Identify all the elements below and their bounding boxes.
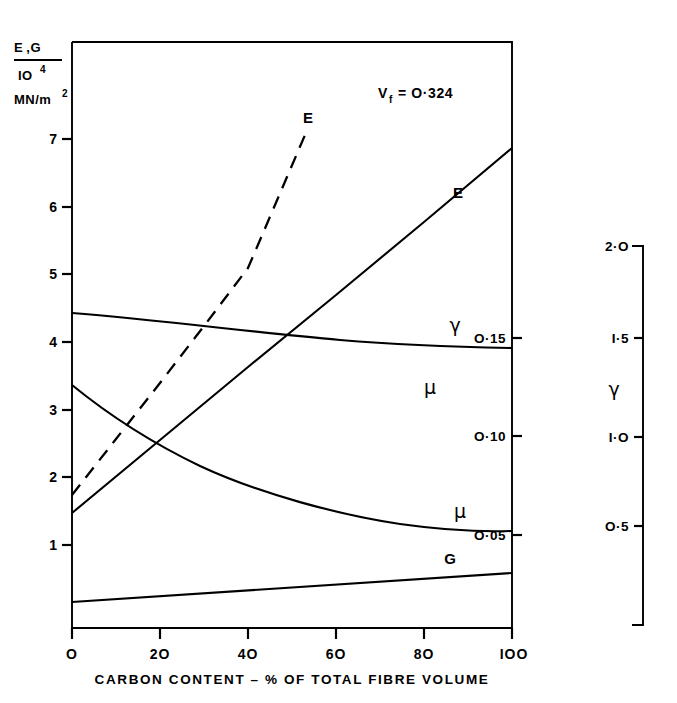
curve-label-E-solid: E [453,184,463,201]
y-axis-title-line3: MN/m [14,92,51,107]
curve-label-mu-lower: μ [454,500,466,522]
y-axis-title-line1: E ,G [14,40,41,55]
vf-value: = O·324 [398,85,453,101]
y-tick-2: 2 [49,469,57,485]
mu-axis-ticks [512,338,522,535]
gamma-axis-spine [632,246,643,625]
curve-E-solid [72,148,512,513]
vf-symbol: V [378,85,388,101]
figure-root: 7 6 5 4 3 2 1 E ,G IO 4 MN/m 2 O [0,0,677,703]
mu-tick-015: O·15 [474,331,506,346]
x-axis-ticks [72,628,512,639]
gamma-tick-10: I·O [609,430,629,445]
y-axis-title-line2: IO [18,68,33,83]
y-tick-5: 5 [49,266,57,282]
curve-label-gamma: γ [449,314,460,336]
x-tick-60: 6O [326,646,347,662]
gamma-tick-05: O·5 [605,519,629,534]
x-tick-20: 2O [150,646,171,662]
x-tick-0: O [66,646,78,662]
curve-label-E-dashed: E [303,109,313,126]
curve-E-dashed [72,135,305,495]
gamma-axis-name: γ [608,378,619,400]
x-axis-title: CARBON CONTENT – % OF TOTAL FIBRE VOLUME [95,672,490,687]
vf-annotation: V f = O·324 [378,85,453,105]
chart-svg: 7 6 5 4 3 2 1 E ,G IO 4 MN/m 2 O [0,0,677,703]
gamma-tick-15: I·5 [612,331,629,346]
mu-axis-tick-labels: O·15 O·10 O·05 [474,331,506,543]
curve-label-G: G [444,550,456,567]
y-tick-3: 3 [49,402,57,418]
x-tick-40: 4O [238,646,259,662]
y-axis-ticks [62,139,72,545]
gamma-tick-20: 2·O [605,239,629,254]
curve-label-mu-upper: μ [424,376,436,398]
vf-subscript: f [389,94,393,105]
y-tick-4: 4 [49,334,57,350]
y-axis-tick-labels: 7 6 5 4 3 2 1 [49,131,57,553]
x-tick-80: 8O [414,646,435,662]
mu-tick-005: O·05 [474,528,506,543]
y-tick-6: 6 [49,199,57,215]
curve-G [72,573,512,602]
x-axis-tick-labels: O 2O 4O 6O 8O IOO [66,646,528,662]
mu-tick-010: O·10 [474,429,506,444]
y-tick-1: 1 [49,537,57,553]
gamma-axis-tick-labels: 2·O I·5 I·O O·5 γ [605,239,629,534]
y-axis-title-exponent: 4 [40,64,46,75]
y-axis-title: E ,G IO 4 MN/m 2 [14,40,68,107]
x-tick-100: IOO [500,646,529,662]
y-axis-title-unit-exponent: 2 [62,88,68,99]
y-tick-7: 7 [49,131,57,147]
gamma-axis-ticks [634,338,643,526]
